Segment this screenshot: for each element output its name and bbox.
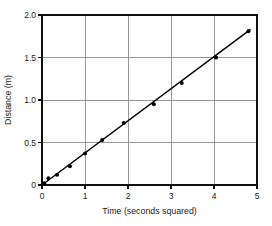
chart-figure: 012345 00.51.01.52.0 Time (seconds squar… (0, 0, 272, 226)
x-tick-label-0: 0 (40, 191, 45, 201)
distance-vs-time-squared-chart: 012345 00.51.01.52.0 Time (seconds squar… (0, 0, 272, 226)
y-tick-label-1.5: 1.5 (24, 53, 36, 63)
y-tick-label-0: 0 (31, 180, 36, 190)
data-point (100, 138, 104, 142)
data-point (42, 181, 46, 185)
data-point (214, 56, 218, 60)
x-tick-label-4: 4 (212, 191, 217, 201)
y-tick-label-1.0: 1.0 (24, 95, 36, 105)
data-point (180, 81, 184, 85)
data-point (46, 176, 50, 180)
x-tick-label-5: 5 (255, 191, 260, 201)
x-tick-label-2: 2 (126, 191, 131, 201)
data-point (55, 173, 59, 177)
x-tick-label-1: 1 (83, 191, 88, 201)
x-axis-title: Time (seconds squared) (102, 206, 197, 216)
data-point (68, 164, 72, 168)
data-point (83, 152, 87, 156)
data-point (152, 102, 156, 106)
y-tick-label-0.5: 0.5 (24, 138, 36, 148)
data-point (122, 121, 126, 125)
x-tick-label-3: 3 (169, 191, 174, 201)
data-point (246, 29, 250, 33)
y-tick-label-2.0: 2.0 (24, 10, 36, 20)
y-axis-title: Distance (m) (3, 75, 13, 125)
